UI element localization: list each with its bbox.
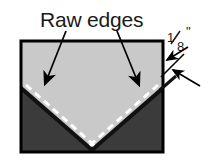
diagram-canvas: Raw edges 1 8 " [0, 0, 214, 168]
mitered-corner-diagram: Raw edges 1 8 " [0, 0, 214, 168]
seam-allowance-denominator: 8 [177, 39, 184, 54]
seam-allowance-numerator: 1 [167, 30, 174, 45]
raw-edges-label: Raw edges [40, 8, 143, 31]
seam-allowance-unit: " [186, 24, 191, 39]
